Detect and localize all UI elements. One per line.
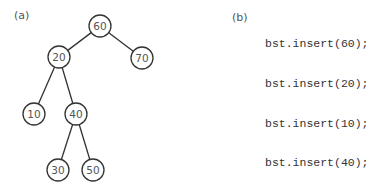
- svg-text:10: 10: [27, 108, 40, 120]
- svg-text:70: 70: [135, 52, 148, 64]
- code-line: bst.insert(40);: [265, 156, 369, 169]
- tree-node: 50: [82, 159, 104, 181]
- svg-text:30: 30: [51, 164, 64, 176]
- tree-node: 20: [48, 46, 70, 68]
- tree-node: 30: [47, 159, 69, 181]
- tree-node: 40: [65, 103, 87, 125]
- tree-edge: [62, 68, 73, 104]
- svg-text:50: 50: [86, 164, 99, 176]
- code-line: bst.insert(10);: [265, 117, 369, 130]
- code-block: bst.insert(60); bst.insert(20); bst.inse…: [265, 11, 369, 192]
- panel-b-label: (b): [232, 11, 248, 24]
- tree-node: 70: [131, 47, 153, 69]
- tree-edge: [61, 124, 72, 159]
- code-line: bst.insert(60);: [265, 37, 369, 50]
- tree-edge: [38, 67, 54, 104]
- tree-edge: [109, 33, 134, 52]
- svg-text:20: 20: [52, 51, 65, 63]
- tree-edge: [79, 125, 90, 160]
- tree-edge: [68, 33, 91, 51]
- tree-node: 60: [89, 15, 111, 37]
- svg-text:40: 40: [69, 108, 82, 120]
- code-line: bst.insert(20);: [265, 77, 369, 90]
- tree-node: 10: [23, 103, 45, 125]
- svg-text:60: 60: [93, 20, 106, 32]
